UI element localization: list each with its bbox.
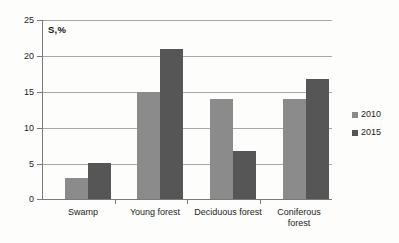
ytick-label-25: 25 <box>4 16 34 25</box>
xtick-label-line: Deciduous forest <box>188 207 268 218</box>
xtick-label-line: Coniferous <box>264 207 334 218</box>
ytick-label-0: 0 <box>4 195 34 204</box>
xtick-label-line: Swamp <box>48 207 118 218</box>
xtick-label-coniferous-forest: Coniferous forest <box>264 207 334 229</box>
legend-item-2015: 2015 <box>352 128 398 137</box>
bar-young-forest-2010 <box>137 92 160 199</box>
xtick-label-swamp: Swamp <box>48 207 118 218</box>
ytick-label-5: 5 <box>4 160 34 169</box>
legend-label: 2010 <box>361 110 381 119</box>
bar-swamp-2010 <box>65 178 88 199</box>
ytick-label-15: 15 <box>4 88 34 97</box>
ytick-label-20: 20 <box>4 52 34 61</box>
legend-swatch-icon <box>352 112 358 118</box>
bar-swamp-2015 <box>88 163 111 199</box>
legend-label: 2015 <box>361 128 381 137</box>
bar-young-forest-2015 <box>160 49 183 199</box>
xtick-label-deciduous-forest: Deciduous forest <box>188 207 268 218</box>
x-axis-separator <box>187 199 188 204</box>
x-axis-separator <box>260 199 261 204</box>
bar-coniferous-forest-2015 <box>306 79 329 199</box>
ytick-label-10: 10 <box>4 124 34 133</box>
bar-deciduous-forest-2015 <box>233 151 256 199</box>
xtick-label-line: Young forest <box>118 207 192 218</box>
x-axis-separator <box>115 199 116 204</box>
bar-chart: 25 20 15 10 5 0 S,% Swamp Young forest D… <box>0 0 399 243</box>
legend: 2010 2015 <box>352 110 398 146</box>
bar-coniferous-forest-2010 <box>283 99 306 199</box>
legend-swatch-icon <box>352 130 358 136</box>
bar-deciduous-forest-2010 <box>210 99 233 199</box>
xtick-label-young-forest: Young forest <box>118 207 192 218</box>
plot-area <box>43 20 332 199</box>
legend-item-2010: 2010 <box>352 110 398 119</box>
xtick-label-line: forest <box>264 218 334 229</box>
